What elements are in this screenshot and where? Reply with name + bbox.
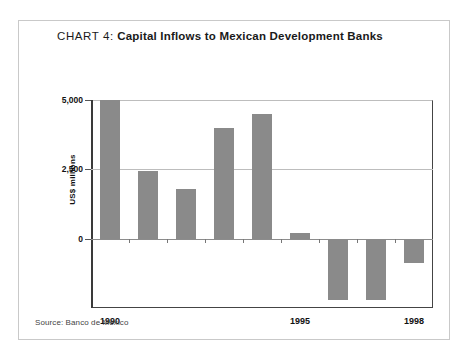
bar-series	[91, 100, 433, 308]
bar-1992	[176, 189, 196, 238]
chart-title-prefix: CHART 4:	[57, 30, 114, 42]
x-tick-mark	[357, 239, 358, 243]
bar-1993	[214, 128, 234, 239]
chart-card: CHART 4: Capital Inflows to Mexican Deve…	[18, 20, 450, 340]
x-tick-mark	[243, 239, 244, 243]
bar-1991	[138, 171, 158, 239]
y-axis-tick-label: 0	[43, 234, 83, 244]
x-axis-label-1998: 1998	[404, 316, 424, 326]
bar-1996	[328, 239, 348, 300]
bar-1994	[252, 114, 272, 239]
y-axis-tick-label: 5,000	[43, 95, 83, 105]
x-tick-mark	[205, 239, 206, 243]
x-tick-mark	[319, 239, 320, 243]
chart-plot-area: US$ millions 5,0002,5000 199019951998	[73, 80, 433, 290]
page-title: CHART 4: Capital Inflows to Mexican Deve…	[57, 30, 383, 42]
source-note: Source: Banco de México	[35, 318, 128, 327]
bar-1997	[366, 239, 386, 300]
x-tick-mark	[129, 239, 130, 243]
y-axis-title: US$ millions	[68, 135, 77, 225]
x-tick-mark	[281, 239, 282, 243]
x-tick-mark	[167, 239, 168, 243]
bar-1990	[100, 100, 120, 239]
bar-1995	[290, 233, 310, 239]
x-axis-label-1995: 1995	[290, 316, 310, 326]
y-axis-tick-label: 2,500	[43, 164, 83, 174]
x-tick-mark	[395, 239, 396, 243]
bar-1998	[404, 239, 424, 263]
chart-title-main: Capital Inflows to Mexican Development B…	[117, 30, 383, 42]
